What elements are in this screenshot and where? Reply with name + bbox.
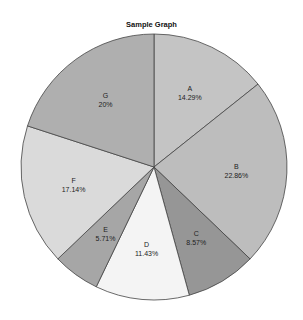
slice-label-percent: 8.57% [186, 239, 206, 246]
slice-label-name: D [144, 241, 149, 248]
slice-label-percent: 5.71% [96, 235, 116, 242]
slice-label-name: G [103, 92, 108, 99]
slice-label-name: F [71, 177, 75, 184]
slice-label-percent: 17.14% [62, 186, 86, 193]
slice-label-percent: 20% [99, 101, 113, 108]
slice-label-percent: 22.86% [225, 172, 249, 179]
slice-label-name: E [103, 226, 108, 233]
pie-chart: A14.29%B22.86%C8.57%D11.43%E5.71%F17.14%… [0, 0, 303, 320]
slice-label-name: C [194, 230, 199, 237]
slice-label-name: A [187, 85, 192, 92]
slice-label-percent: 11.43% [135, 250, 158, 257]
slice-label-name: B [234, 163, 239, 170]
slice-label-percent: 14.29% [178, 94, 202, 101]
